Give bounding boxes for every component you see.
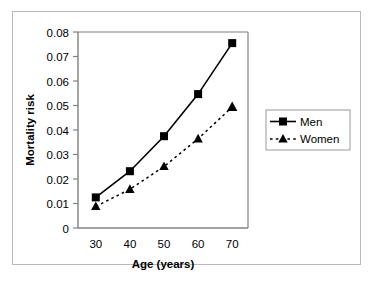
y-tick-label: 0.03: [47, 149, 69, 161]
y-axis-title: Mortality risk: [24, 94, 36, 166]
plot-axes: [78, 32, 248, 228]
x-tick-label: 70: [226, 238, 239, 250]
legend-men-label: Men: [300, 116, 322, 128]
y-axis-tick-labels: 0.08 0.07 0.06 0.05 0.04 0.03 0.02 0.01 …: [47, 27, 70, 235]
y-tick-label: 0.02: [47, 174, 69, 186]
women-marker-age-40: [125, 184, 134, 193]
x-tick-label: 50: [158, 238, 171, 250]
y-tick-label: 0: [63, 223, 69, 235]
women-marker-age-50: [159, 162, 168, 171]
chart-legend: Men Women: [266, 110, 350, 150]
y-axis-ticks: [73, 32, 78, 228]
women-marker-age-70: [227, 102, 237, 112]
x-axis-tick-labels: 30 40 50 60 70: [89, 238, 238, 250]
men-line: [96, 43, 232, 197]
women-marker-age-30: [91, 201, 100, 210]
y-tick-label: 0.07: [47, 51, 69, 63]
figure-container: 0.08 0.07 0.06 0.05 0.04 0.03 0.02 0.01 …: [0, 0, 375, 298]
men-marker-age-30: [92, 193, 100, 201]
men-marker-age-60: [194, 90, 202, 98]
x-tick-label: 60: [192, 238, 205, 250]
men-marker-age-70: [228, 39, 236, 47]
series-women: [91, 102, 237, 211]
legend-men-marker: [279, 118, 287, 126]
x-tick-label: 30: [89, 238, 102, 250]
x-tick-label: 40: [124, 238, 137, 250]
series-men: [92, 39, 236, 201]
y-tick-label: 0.06: [47, 76, 69, 88]
x-axis-title: Age (years): [132, 258, 195, 270]
men-marker-age-50: [160, 132, 168, 140]
y-tick-label: 0.08: [47, 27, 69, 39]
men-marker-age-40: [126, 167, 134, 175]
legend-women-label: Women: [300, 133, 339, 145]
mortality-risk-line-chart: 0.08 0.07 0.06 0.05 0.04 0.03 0.02 0.01 …: [0, 0, 375, 298]
y-tick-label: 0.01: [47, 198, 69, 210]
y-tick-label: 0.04: [47, 125, 70, 137]
women-line: [96, 107, 232, 206]
y-tick-label: 0.05: [47, 100, 69, 112]
